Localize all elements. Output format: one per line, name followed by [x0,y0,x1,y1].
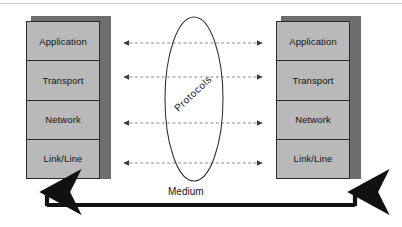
peer-protocol-arrows [124,43,262,163]
diagram-canvas: Application Transport Network Link/Line … [0,0,402,227]
medium-label: Medium [168,186,204,197]
